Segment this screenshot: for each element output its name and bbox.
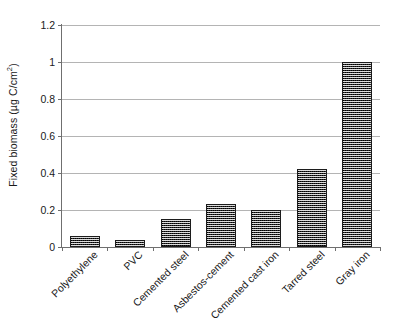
y-axis-tick-mark (58, 247, 62, 248)
y-axis-title-prefix: Fixed biomass (µg C/cm (7, 71, 19, 187)
x-axis-tick-label-text: PVC (122, 249, 145, 272)
x-axis-tick-labels: PolyethylenePVCCemented steelAsbestos-ce… (62, 249, 380, 328)
y-axis-title-text: Fixed biomass (µg C/cm2) (7, 63, 19, 187)
y-axis-tick-label: 0.6 (40, 131, 55, 142)
y-axis-tick-label: 0.4 (40, 168, 55, 179)
y-axis-tick-label: 1 (49, 57, 55, 68)
bar (161, 219, 191, 247)
bar-chart-figure: Fixed biomass (µg C/cm2) 00.20.40.60.811… (0, 0, 397, 328)
y-axis-title-suffix: ) (7, 63, 19, 67)
y-axis-tick-labels: 00.20.40.60.811.2 (22, 0, 59, 328)
x-axis-tick-label-text: Tarred steel (280, 249, 326, 295)
y-axis-tick-label: 0.2 (40, 205, 55, 216)
y-axis-title-exponent: 2 (6, 67, 15, 71)
y-axis-tick-label: 1.2 (40, 20, 55, 31)
x-axis-tick-label-text: Gray iron (334, 249, 372, 287)
y-axis-tick-label: 0 (49, 242, 55, 253)
y-axis-tick-label: 0.8 (40, 94, 55, 105)
